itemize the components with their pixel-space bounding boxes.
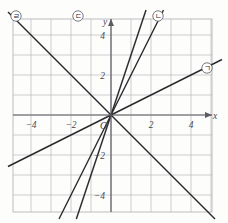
figure-canvas: −4−22442−2−4 x y O ㄹㄷㄴㄱ bbox=[0, 0, 228, 223]
axes bbox=[13, 19, 212, 212]
y-tick-label: 4 bbox=[100, 31, 105, 41]
callout-line-d: ㄷ bbox=[73, 11, 83, 21]
callout-label: ㄷ bbox=[75, 12, 82, 21]
origin-label: O bbox=[100, 120, 107, 131]
y-tick-label: −2 bbox=[94, 151, 105, 161]
callout-label: ㄹ bbox=[13, 12, 20, 21]
x-axis-label: x bbox=[212, 111, 218, 121]
callout-label: ㄴ bbox=[155, 12, 162, 21]
y-axis-arrowhead bbox=[108, 19, 114, 26]
line-g bbox=[8, 60, 222, 167]
callout-line-r: ㄹ bbox=[11, 11, 21, 21]
x-tick-label: 2 bbox=[149, 120, 154, 130]
coordinate-plane-figure: −4−22442−2−4 x y O ㄹㄷㄴㄱ bbox=[0, 0, 228, 223]
callout-line-g: ㄱ bbox=[202, 63, 212, 73]
callout-line-n: ㄴ bbox=[153, 11, 163, 21]
y-axis-label: y bbox=[102, 17, 108, 27]
x-tick-label: −4 bbox=[25, 120, 36, 130]
y-tick-label: −4 bbox=[94, 191, 105, 201]
x-tick-label: 4 bbox=[189, 120, 194, 130]
callout-label: ㄱ bbox=[204, 64, 211, 73]
x-tick-label: −2 bbox=[65, 120, 76, 130]
y-tick-label: 2 bbox=[100, 71, 105, 81]
